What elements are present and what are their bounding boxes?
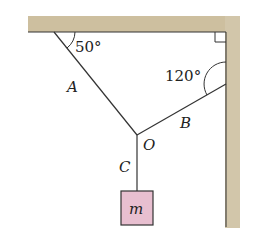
wall — [225, 16, 240, 228]
right-angle-marker — [215, 32, 226, 42]
cable-a-label: A — [65, 78, 78, 96]
diagram: 50° 120° A B O C m — [0, 0, 253, 243]
angle-label-120: 120° — [165, 67, 201, 85]
mass-label: m — [129, 200, 143, 218]
ceiling — [28, 16, 240, 32]
cable-b-label: B — [179, 114, 191, 132]
angle-label-50: 50° — [75, 38, 102, 56]
cable-c-label: C — [119, 158, 131, 176]
angle-arc-50 — [67, 32, 75, 48]
junction-label: O — [143, 136, 155, 154]
